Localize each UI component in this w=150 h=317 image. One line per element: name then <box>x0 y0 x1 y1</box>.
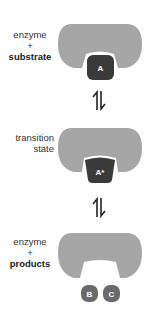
substrate-label: A <box>98 64 104 73</box>
transition-label: A* <box>96 168 106 177</box>
transition-state-a-star: A* <box>85 158 115 184</box>
product-c: C <box>103 285 120 302</box>
product-c-label: C <box>109 290 115 299</box>
product-b: B <box>81 285 98 302</box>
product-b-label: B <box>87 290 93 299</box>
equilibrium-arrow-1-icon <box>93 91 105 110</box>
enzyme-shape-3 <box>58 233 142 278</box>
equilibrium-arrow-2-icon <box>93 198 105 217</box>
substrate-a: A <box>87 55 114 80</box>
enzyme-diagram: A A* B C <box>0 0 150 317</box>
